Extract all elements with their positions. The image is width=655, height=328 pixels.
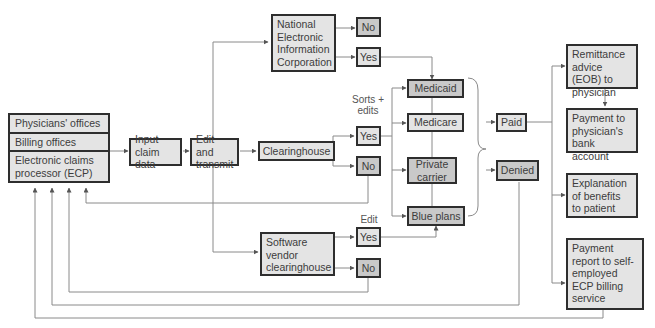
payment-bank-node: Payment to physician's bank account [566, 108, 638, 153]
source-stack: Physicians' offices Billing offices Elec… [8, 113, 110, 183]
medicare-node: Medicare [407, 113, 464, 132]
physicians-offices-node: Physicians' offices [10, 115, 108, 132]
billing-offices-node: Billing offices [10, 132, 108, 151]
neic-yes-node: Yes [356, 47, 381, 67]
paid-node: Paid [496, 113, 527, 132]
medicaid-node: Medicaid [407, 79, 464, 98]
software-vendor-yes-node: Yes [356, 227, 381, 247]
remittance-advice-node: Remittance advice (EOB) to physician [566, 44, 638, 89]
sorts-edits-label: Sorts + edits [352, 94, 384, 116]
software-vendor-node: Software vendor clearinghouse [260, 232, 335, 276]
software-vendor-no-node: No [356, 258, 381, 278]
edit-label: Edit [356, 214, 382, 225]
neic-no-node: No [356, 17, 381, 37]
input-claim-data-node: Input claim data [129, 138, 182, 166]
eob-patient-node: Explanation of benefits to patient [566, 173, 638, 218]
neic-node: National Electronic Information Corporat… [271, 14, 336, 72]
clearinghouse-yes-node: Yes [356, 126, 381, 146]
private-carrier-node: Private carrier [407, 157, 457, 184]
edit-and-transmit-node: Edit and transmit [190, 138, 239, 166]
denied-node: Denied [496, 160, 539, 181]
payment-report-node: Payment report to self-employed ECP bill… [566, 238, 644, 310]
blue-plans-node: Blue plans [407, 206, 465, 226]
claims-flow-diagram: Physicians' offices Billing offices Elec… [0, 0, 655, 328]
clearinghouse-node: Clearinghouse [258, 141, 335, 161]
ecp-node: Electronic claims processor (ECP) [10, 150, 108, 181]
clearinghouse-no-node: No [356, 156, 381, 176]
